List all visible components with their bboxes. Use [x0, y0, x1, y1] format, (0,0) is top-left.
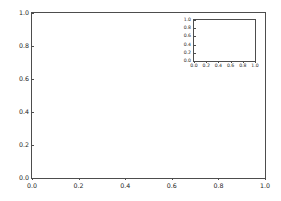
inset-axes-x-tickmark: [255, 61, 256, 63]
main-axes-x-tickmark: [172, 178, 173, 180]
inset-axes-x-tickmark: [218, 61, 219, 63]
inset-axes-x-tickmark: [206, 61, 207, 63]
main-axes-x-tickmark: [125, 178, 126, 180]
main-axes-y-tickmark: [32, 112, 34, 113]
inset-axes-frame[interactable]: [193, 19, 256, 62]
main-axes-y-ticklabel: 1.0: [19, 10, 29, 16]
main-axes-x-ticklabel: 0.2: [74, 183, 84, 189]
main-axes-y-tickmark: [32, 13, 34, 14]
inset-axes-y-tickmark: [194, 20, 196, 21]
inset-axes-y-tickmark: [194, 28, 196, 29]
main-axes-y-ticklabel: 0.6: [19, 76, 29, 82]
main-axes-y-tickmark: [32, 79, 34, 80]
inset-axes-y-tickmark: [194, 53, 196, 54]
main-axes-x-tickmark: [218, 178, 219, 180]
inset-axes-y-tickmark: [194, 45, 196, 46]
main-axes-y-ticklabel: 0.2: [19, 142, 29, 148]
inset-axes-x-tickmark: [243, 61, 244, 63]
inset-axes-y-tickmark: [194, 61, 196, 62]
inset-axes-x-tickmark: [231, 61, 232, 63]
main-axes-x-ticklabel: 0.6: [167, 183, 177, 189]
figure-canvas: 0.00.20.40.60.81.0 0.00.20.40.60.81.0 0.…: [0, 0, 281, 201]
main-axes-x-ticklabel: 0.8: [213, 183, 223, 189]
main-axes-x-ticklabel: 1.0: [260, 183, 270, 189]
main-axes-y-tickmark: [32, 145, 34, 146]
main-axes-x-ticklabel: 0.4: [120, 183, 130, 189]
main-axes-y-ticklabel: 0.0: [19, 175, 29, 181]
inset-axes-y-tickmark: [194, 36, 196, 37]
main-axes-x-ticklabel: 0.0: [27, 183, 37, 189]
main-axes-x-tickmark: [265, 178, 266, 180]
main-axes-y-ticklabels: 0.00.20.40.60.81.0: [3, 13, 29, 178]
main-axes-y-tickmark: [32, 178, 34, 179]
main-axes-y-tickmark: [32, 46, 34, 47]
main-axes-x-tickmark: [79, 178, 80, 180]
main-axes-y-ticklabel: 0.8: [19, 43, 29, 49]
main-axes-y-ticklabel: 0.4: [19, 109, 29, 115]
